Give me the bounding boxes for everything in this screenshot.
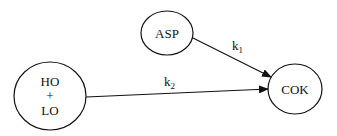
edge-holo-to-cok: k2 [86, 74, 268, 97]
edge-asp-to-cok: k1 [193, 38, 271, 77]
node-asp: ASP [141, 11, 193, 55]
node-plus-label: + [46, 88, 53, 103]
arrow-k2 [86, 89, 268, 97]
node-asp-label: ASP [155, 26, 179, 41]
reaction-diagram: ASP HO + LO COK k1 k2 [0, 0, 337, 136]
rate-k1-label: k1 [232, 38, 243, 55]
node-ho-label: HO [41, 74, 60, 89]
node-lo-label: LO [41, 103, 58, 118]
node-cok-label: COK [281, 82, 309, 97]
rate-k2-label: k2 [164, 74, 175, 91]
node-ho-lo: HO + LO [14, 62, 86, 130]
node-cok: COK [268, 64, 322, 114]
